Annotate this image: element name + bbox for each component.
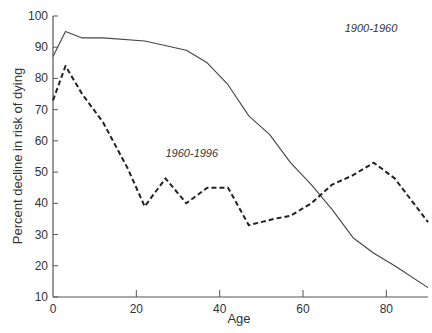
y-tick-label: 60: [35, 134, 49, 148]
line-chart: 102030405060708090100020406080 1900-1960…: [0, 0, 432, 333]
y-tick-label: 10: [35, 290, 49, 304]
x-tick-label: 0: [50, 302, 57, 316]
series-labels: 1900-19601960-1996: [166, 22, 399, 159]
y-tick-label: 20: [35, 259, 49, 273]
series-line-1960-1996: [53, 66, 428, 225]
axes: 102030405060708090100020406080: [28, 9, 428, 316]
y-tick-label: 30: [35, 228, 49, 242]
y-tick-label: 90: [35, 40, 49, 54]
x-tick-label: 20: [130, 302, 144, 316]
y-tick-label: 100: [28, 9, 48, 23]
y-tick-label: 50: [35, 165, 49, 179]
y-axis-title: Percent decline in risk of dying: [10, 68, 25, 244]
series-lines: [53, 32, 428, 288]
series-line-1900-1960: [53, 32, 428, 288]
x-axis-title: Age: [227, 311, 250, 326]
series-label-1960-1996: 1960-1996: [166, 147, 219, 159]
x-tick-label: 80: [380, 302, 394, 316]
series-label-1900-1960: 1900-1960: [345, 22, 398, 34]
y-tick-label: 70: [35, 103, 49, 117]
x-tick-label: 60: [296, 302, 310, 316]
x-tick-label: 40: [213, 302, 227, 316]
y-tick-label: 80: [35, 71, 49, 85]
y-tick-label: 40: [35, 196, 49, 210]
